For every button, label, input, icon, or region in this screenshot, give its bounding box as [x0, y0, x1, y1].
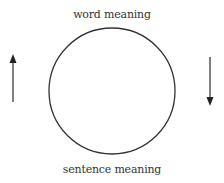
cycle-circle [49, 28, 175, 154]
hermeneutic-circle-diagram: word meaning sentence meaning [0, 0, 224, 183]
sentence-meaning-label: sentence meaning [0, 163, 224, 176]
up-arrow-icon [10, 54, 17, 102]
word-meaning-label: word meaning [0, 8, 224, 21]
down-arrow-icon [207, 57, 214, 106]
diagram-graphics [0, 0, 224, 183]
